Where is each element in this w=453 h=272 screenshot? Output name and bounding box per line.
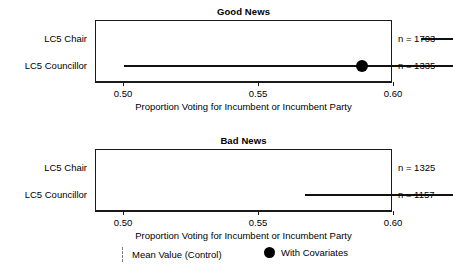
x-axis-bad-news: 0.500.550.600.650.700.75	[95, 211, 392, 212]
dashed-line-icon	[122, 247, 123, 262]
category-label-bad-news-councillor: LC5 Councillor	[25, 189, 87, 200]
x-axis-spine	[95, 211, 392, 212]
panel-title-good-news: Good News	[95, 6, 392, 17]
category-label-good-news-councillor: LC5 Councillor	[25, 60, 87, 71]
sample-size-good-news-councillor: n = 1335	[398, 60, 435, 71]
category-label-bad-news-chair: LC5 Chair	[44, 162, 87, 173]
plot-area-bad-news	[95, 149, 392, 211]
x-axis-tick	[393, 211, 394, 215]
x-axis-tick	[123, 82, 124, 86]
x-axis-tick-label: 0.60	[384, 88, 403, 99]
x-axis-tick	[258, 82, 259, 86]
legend-label-with-covariates: With Covariates	[281, 247, 348, 258]
x-axis-tick-label: 0.60	[384, 217, 403, 228]
panel-good-news: Good News LC5 Chair LC5 Councillor n = 1…	[0, 0, 453, 120]
panel-bad-news: Bad News LC5 Chair LC5 Councillor n = 13…	[0, 129, 453, 249]
forest-plot-figure: Good News LC5 Chair LC5 Councillor n = 1…	[0, 0, 453, 272]
legend-label-mean-control: Mean Value (Control)	[132, 249, 222, 260]
x-axis-tick	[258, 211, 259, 215]
x-axis-tick-label: 0.50	[114, 217, 133, 228]
x-axis-tick	[393, 82, 394, 86]
panel-title-bad-news: Bad News	[95, 135, 392, 146]
estimate-point-good-news-councillor	[356, 60, 368, 72]
x-axis-tick-label: 0.50	[114, 88, 133, 99]
x-axis-tick-label: 0.55	[249, 88, 268, 99]
chart-legend: Mean Value (Control) With Covariates	[0, 247, 453, 269]
filled-circle-icon	[264, 247, 275, 258]
x-axis-tick	[123, 211, 124, 215]
legend-item-mean-control: Mean Value (Control)	[122, 247, 222, 262]
x-axis-tick-label: 0.55	[249, 217, 268, 228]
sample-size-bad-news-chair: n = 1325	[398, 162, 435, 173]
category-label-good-news-chair: LC5 Chair	[44, 33, 87, 44]
x-axis-title-good-news: Proportion Voting for Incumbent or Incum…	[95, 101, 392, 112]
legend-item-with-covariates: With Covariates	[264, 247, 348, 258]
x-axis-good-news: 0.500.550.600.650.700.75	[95, 82, 392, 83]
x-axis-spine	[95, 82, 392, 83]
sample-size-bad-news-councillor: n = 1157	[398, 189, 435, 200]
x-axis-title-bad-news: Proportion Voting for Incumbent or Incum…	[95, 230, 392, 241]
sample-size-good-news-chair: n = 1703	[398, 33, 435, 44]
plot-area-good-news	[95, 20, 392, 82]
